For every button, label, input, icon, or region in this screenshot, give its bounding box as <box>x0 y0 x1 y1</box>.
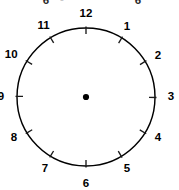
hour-label-1: 1 <box>124 20 131 32</box>
center-pivot-dot <box>83 94 89 100</box>
clock-face-figure: 6-6 121234567891011 <box>0 0 179 190</box>
hour-label-4: 4 <box>155 131 162 143</box>
clock-face-svg: 6-6 121234567891011 <box>0 0 179 190</box>
hour-label-3: 3 <box>168 90 174 102</box>
cropped-glyph-2: 6 <box>135 0 141 6</box>
hour-label-9: 9 <box>0 90 4 102</box>
hour-label-7: 7 <box>42 162 48 174</box>
hour-label-10: 10 <box>5 48 18 60</box>
hour-label-2: 2 <box>155 49 161 61</box>
hour-label-8: 8 <box>11 131 18 143</box>
cropped-glyph-1: - <box>60 0 64 4</box>
hour-label-6: 6 <box>83 177 89 189</box>
cropped-top-text-fragments: 6-6 <box>43 0 141 6</box>
hour-label-11: 11 <box>37 19 50 31</box>
cropped-glyph-0: 6 <box>43 0 49 6</box>
hour-label-5: 5 <box>124 162 131 174</box>
hour-label-12: 12 <box>80 7 93 19</box>
